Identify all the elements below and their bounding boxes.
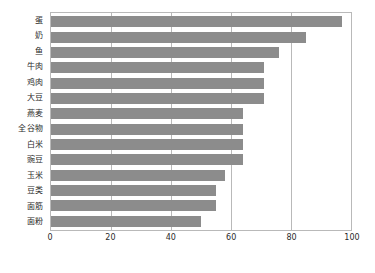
bar xyxy=(51,139,243,150)
x-axis-tick-label: 20 xyxy=(105,234,115,242)
bar-row xyxy=(51,215,351,228)
x-axis-tick-label: 40 xyxy=(166,234,176,242)
y-axis-label: 面粉 xyxy=(0,216,47,229)
bar xyxy=(51,16,342,27)
bar xyxy=(51,93,264,104)
bar xyxy=(51,185,216,196)
bar-row xyxy=(51,61,351,74)
y-axis-label: 玉米 xyxy=(0,169,47,182)
bar xyxy=(51,62,264,73)
bar-row xyxy=(51,184,351,197)
x-axis-tick-label: 60 xyxy=(226,234,236,242)
y-axis-label: 蛋 xyxy=(0,14,47,27)
bar xyxy=(51,108,243,119)
bar xyxy=(51,170,225,181)
y-axis-label: 豌豆 xyxy=(0,154,47,167)
bar-row xyxy=(51,77,351,90)
bar xyxy=(51,124,243,135)
y-axis-label: 燕麦 xyxy=(0,107,47,120)
y-axis-label: 牛肉 xyxy=(0,61,47,74)
bar-row xyxy=(51,138,351,151)
bar-row xyxy=(51,31,351,44)
bar-row xyxy=(51,15,351,28)
bar-row xyxy=(51,153,351,166)
bar-row xyxy=(51,46,351,59)
y-axis-label: 奶 xyxy=(0,30,47,43)
y-axis-label: 鱼 xyxy=(0,45,47,58)
y-axis-label: 鸡肉 xyxy=(0,76,47,89)
y-axis-category-labels: 蛋奶鱼牛肉鸡肉大豆燕麦全谷物白米豌豆玉米豆类面筋面粉 xyxy=(0,12,47,231)
y-axis-label: 全谷物 xyxy=(0,123,47,136)
y-axis-label: 白米 xyxy=(0,138,47,151)
bar-row xyxy=(51,92,351,105)
bar xyxy=(51,154,243,165)
y-axis-label: 大豆 xyxy=(0,92,47,105)
bar xyxy=(51,47,279,58)
x-axis-tick-labels: 020406080100 xyxy=(50,234,352,250)
x-axis-tick-label: 0 xyxy=(47,234,52,242)
y-axis-label: 面筋 xyxy=(0,200,47,213)
bar xyxy=(51,200,216,211)
bar-row xyxy=(51,107,351,120)
bar xyxy=(51,78,264,89)
bar xyxy=(51,216,201,227)
x-axis-tick-label: 80 xyxy=(287,234,297,242)
bar-row xyxy=(51,123,351,136)
bar-row xyxy=(51,199,351,212)
plot-area xyxy=(50,12,352,231)
x-axis-tick-label: 100 xyxy=(344,234,359,242)
bar-chart: 蛋奶鱼牛肉鸡肉大豆燕麦全谷物白米豌豆玉米豆类面筋面粉 020406080100 xyxy=(0,0,375,273)
bar xyxy=(51,32,306,43)
bar-row xyxy=(51,169,351,182)
bars-container xyxy=(51,13,351,230)
y-axis-label: 豆类 xyxy=(0,185,47,198)
